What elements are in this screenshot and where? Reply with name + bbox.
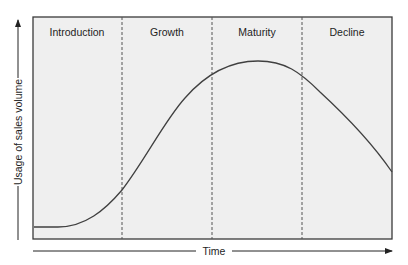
- y-axis-label: Usage of sales volume: [12, 79, 24, 185]
- product-life-cycle-diagram: Introduction Growth Maturity Decline Usa…: [0, 0, 408, 265]
- stage-label-growth: Growth: [150, 26, 184, 38]
- stage-label-decline: Decline: [329, 26, 364, 38]
- x-axis-label: Time: [203, 245, 226, 257]
- stage-label-maturity: Maturity: [238, 26, 276, 38]
- stage-label-introduction: Introduction: [50, 26, 105, 38]
